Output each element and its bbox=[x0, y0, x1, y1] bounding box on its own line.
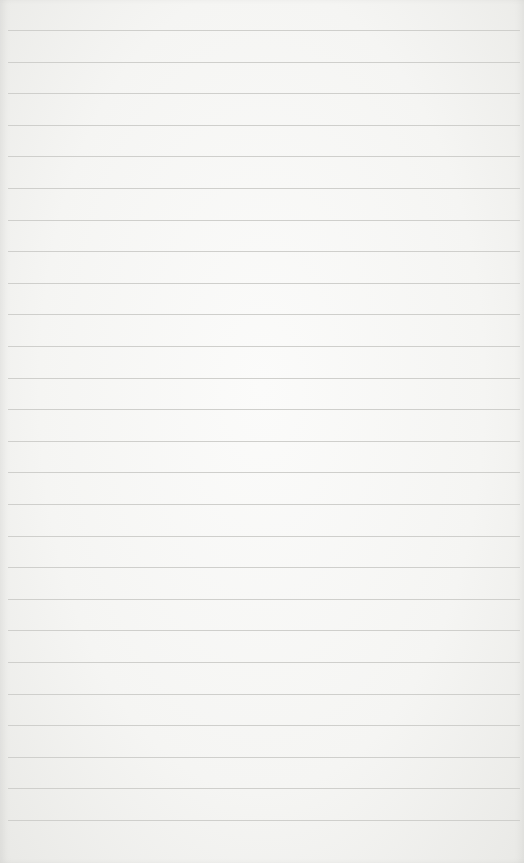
ruled-line bbox=[8, 220, 520, 221]
lined-paper-sheet bbox=[0, 0, 524, 863]
ruled-line bbox=[8, 536, 520, 537]
ruled-line bbox=[8, 757, 520, 758]
ruled-line bbox=[8, 630, 520, 631]
ruled-line bbox=[8, 62, 520, 63]
ruled-line bbox=[8, 156, 520, 157]
ruled-line bbox=[8, 820, 520, 821]
ruled-line bbox=[8, 472, 520, 473]
ruled-line bbox=[8, 599, 520, 600]
ruled-line bbox=[8, 504, 520, 505]
ruled-line bbox=[8, 30, 520, 31]
ruled-line bbox=[8, 662, 520, 663]
ruled-line bbox=[8, 188, 520, 189]
ruled-line bbox=[8, 788, 520, 789]
ruled-line bbox=[8, 251, 520, 252]
ruled-line bbox=[8, 93, 520, 94]
ruled-line bbox=[8, 125, 520, 126]
ruled-line bbox=[8, 441, 520, 442]
ruled-line bbox=[8, 725, 520, 726]
ruled-line bbox=[8, 378, 520, 379]
ruled-line bbox=[8, 409, 520, 410]
ruled-line bbox=[8, 314, 520, 315]
ruled-line bbox=[8, 694, 520, 695]
ruled-line bbox=[8, 567, 520, 568]
ruled-line bbox=[8, 346, 520, 347]
ruled-line bbox=[8, 283, 520, 284]
